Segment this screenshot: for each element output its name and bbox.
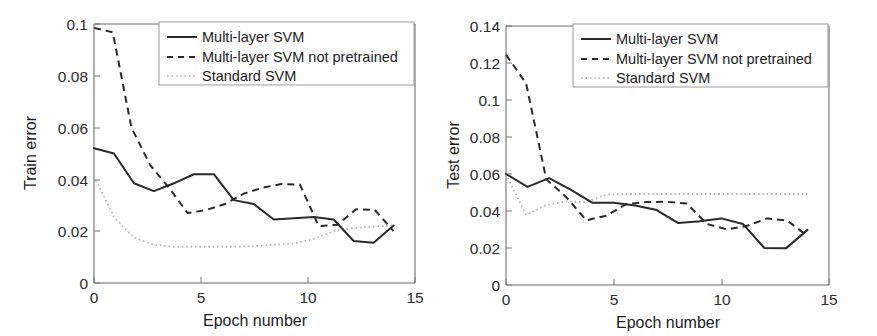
train-ylabel: Train error — [22, 115, 39, 190]
train-ytick-0.02: 0.02 — [58, 223, 88, 240]
train-ytick-0.1: 0.1 — [66, 16, 88, 33]
figure-container: 0.1 0.08 0.06 0.04 0.02 0 0 5 10 15 Epoc… — [0, 0, 877, 336]
test-y-ticks — [506, 26, 512, 285]
panel-train-error: 0.1 0.08 0.06 0.04 0.02 0 0 5 10 15 Epoc… — [0, 0, 438, 336]
test-error-plot: 0.14 0.12 0.1 0.08 0.06 0.04 0.02 0 0 5 … — [439, 0, 877, 336]
train-xtick-0: 0 — [90, 289, 99, 306]
test-x-ticks — [506, 279, 829, 285]
train-xlabel: Epoch number — [203, 312, 308, 329]
test-ytick-0.06: 0.06 — [470, 166, 500, 183]
test-ytick-0.04: 0.04 — [470, 203, 501, 220]
test-xtick-10: 10 — [713, 291, 731, 308]
train-ytick-0.08: 0.08 — [58, 68, 88, 85]
test-ytick-0.14: 0.14 — [470, 18, 501, 35]
test-series-multilayer-svm — [506, 174, 807, 248]
train-ytick-0.04: 0.04 — [58, 172, 89, 189]
train-error-plot: 0.1 0.08 0.06 0.04 0.02 0 0 5 10 15 Epoc… — [0, 0, 438, 336]
test-legend-label-0[interactable]: Multi-layer SVM — [616, 31, 718, 47]
train-xtick-15: 15 — [406, 289, 423, 306]
test-xtick-15: 15 — [820, 291, 837, 308]
test-legend-label-1[interactable]: Multi-layer SVM not pretrained — [616, 51, 812, 67]
test-xlabel: Epoch number — [616, 314, 721, 331]
test-legend[interactable]: Multi-layer SVM Multi-layer SVM not pret… — [573, 24, 828, 87]
test-ytick-0.12: 0.12 — [470, 55, 500, 72]
test-legend-label-2[interactable]: Standard SVM — [616, 70, 710, 86]
test-ytick-0: 0 — [491, 277, 500, 294]
test-ytick-0.1: 0.1 — [478, 92, 500, 109]
test-ytick-0.02: 0.02 — [470, 240, 500, 257]
train-ytick-0.06: 0.06 — [58, 120, 88, 137]
train-x-ticks — [94, 277, 415, 283]
test-ytick-0.08: 0.08 — [470, 129, 500, 146]
train-legend-label-0[interactable]: Multi-layer SVM — [202, 29, 304, 45]
train-ytick-0: 0 — [79, 275, 88, 292]
test-xtick-0: 0 — [502, 291, 511, 308]
test-xtick-5: 5 — [610, 291, 619, 308]
train-series-multilayer-svm — [94, 148, 394, 243]
train-xtick-10: 10 — [299, 289, 317, 306]
test-ylabel: Test error — [445, 121, 462, 189]
train-y-ticks — [94, 24, 100, 283]
train-xtick-5: 5 — [197, 289, 206, 306]
train-legend-label-1[interactable]: Multi-layer SVM not pretrained — [202, 49, 398, 65]
train-legend[interactable]: Multi-layer SVM Multi-layer SVM not pret… — [159, 22, 414, 85]
train-legend-label-2[interactable]: Standard SVM — [202, 68, 296, 84]
panel-test-error: 0.14 0.12 0.1 0.08 0.06 0.04 0.02 0 0 5 … — [439, 0, 877, 336]
